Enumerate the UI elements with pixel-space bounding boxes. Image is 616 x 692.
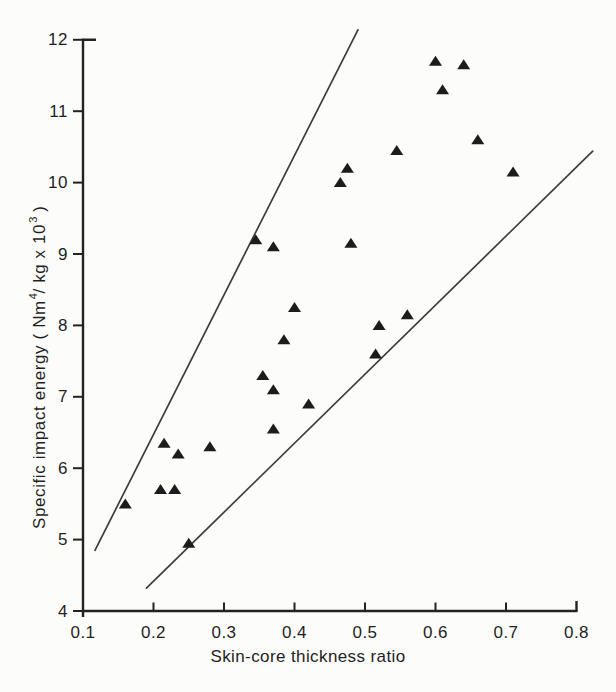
y-axis-label-text: / kg x 10: [30, 224, 49, 294]
data-point-triangle: [267, 423, 280, 433]
upper-boundary-line: [95, 30, 358, 551]
data-point-triangle: [369, 348, 382, 358]
x-tick-label: 0.2: [141, 623, 166, 642]
x-tick-label: 0.7: [493, 623, 518, 642]
scatter-plot-figure: 4567891011120.10.20.30.40.50.60.70.8 Spe…: [0, 0, 616, 692]
data-point-triangle: [158, 438, 171, 448]
x-tick-label: 0.1: [70, 623, 95, 642]
x-axis-label: Skin-core thickness ratio: [0, 647, 616, 667]
data-point-triangle: [471, 134, 484, 144]
figure-page: 4567891011120.10.20.30.40.50.60.70.8 Spe…: [0, 0, 616, 692]
x-tick-label: 0.5: [352, 623, 377, 642]
x-tick-label: 0.4: [282, 623, 307, 642]
data-point-triangle: [373, 320, 386, 330]
data-point-triangle: [457, 59, 470, 69]
y-tick-label: 12: [48, 30, 68, 49]
data-point-triangle: [429, 56, 442, 66]
y-tick-label: 8: [58, 316, 68, 335]
y-tick-label: 6: [58, 459, 68, 478]
y-axis-label-text: Specific impact energy ( Nm: [30, 300, 49, 529]
y-tick-label: 11: [49, 102, 68, 121]
data-point-triangle: [277, 334, 290, 344]
y-axis-line: [83, 40, 96, 617]
y-tick-label: 9: [58, 245, 68, 264]
y-tick-label: 10: [48, 173, 68, 192]
x-tick-label: 0.8: [564, 623, 589, 642]
data-point-triangle: [249, 234, 262, 244]
lower-boundary-line: [146, 151, 592, 588]
x-tick-label: 0.6: [423, 623, 448, 642]
data-point-triangle: [172, 448, 185, 458]
data-point-triangle: [334, 177, 347, 187]
y-tick-label: 7: [58, 387, 68, 406]
y-axis-label: Specific impact energy ( Nm4/ kg x 103 ): [28, 206, 50, 529]
data-point-triangle: [507, 166, 520, 176]
data-point-triangle: [390, 145, 403, 155]
data-point-triangle: [401, 309, 414, 319]
data-point-triangle: [436, 84, 449, 94]
y-axis-label-superscript-4: 4: [27, 293, 39, 300]
chart-area: 4567891011120.10.20.30.40.50.60.70.8: [0, 0, 616, 692]
data-point-triangle: [344, 238, 357, 248]
data-point-triangle: [154, 484, 167, 494]
data-point-triangle: [302, 398, 315, 408]
data-point-triangle: [267, 384, 280, 394]
data-point-triangle: [256, 370, 269, 380]
data-point-triangle: [168, 484, 181, 494]
y-tick-label: 5: [58, 530, 68, 549]
data-point-triangle: [288, 302, 301, 312]
data-point-triangle: [267, 241, 280, 251]
x-tick-label: 0.3: [211, 623, 236, 642]
data-point-triangle: [203, 441, 216, 451]
data-point-triangle: [341, 163, 354, 173]
y-tick-label: 4: [58, 602, 68, 621]
y-axis-label-superscript-3: 3: [27, 216, 39, 223]
